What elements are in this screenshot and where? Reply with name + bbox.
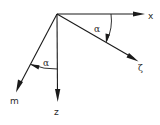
x-axis: x	[57, 11, 154, 21]
alpha-lower-angle: α	[30, 58, 58, 70]
alpha-upper-arrowhead-icon	[106, 34, 111, 44]
x-axis-label: x	[148, 11, 154, 21]
l-axis-arrowhead-icon	[127, 53, 139, 62]
x-axis-arrowhead-icon	[133, 12, 145, 17]
alpha-upper-angle: α	[94, 14, 111, 43]
l-axis-label: ζ	[138, 63, 143, 73]
m-axis: m	[10, 14, 57, 106]
z-axis-arrowhead-icon	[55, 89, 60, 102]
alpha-lower-arrowhead-icon	[30, 64, 40, 69]
z-axis: z	[54, 14, 60, 117]
m-axis-label: m	[10, 96, 19, 106]
alpha-lower-label: α	[43, 58, 49, 68]
z-axis-label: z	[54, 107, 59, 117]
alpha-upper-label: α	[94, 24, 100, 34]
l-axis: ζ	[57, 14, 143, 73]
axes-diagram: x ζ z m α α	[0, 0, 160, 125]
